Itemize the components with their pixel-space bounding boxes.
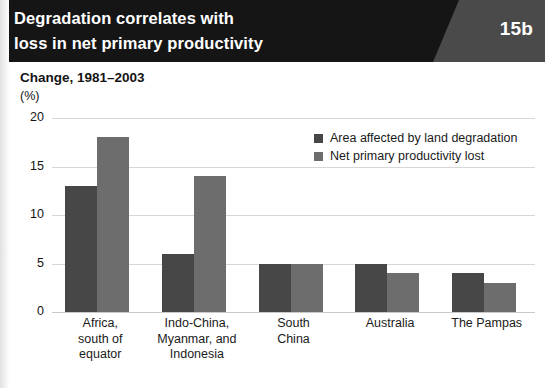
x-axis-category-labels: Africa,south ofequatorIndo-China,Myanmar… bbox=[52, 316, 535, 378]
legend-swatch-icon-1 bbox=[314, 152, 323, 161]
bar-1-1 bbox=[194, 176, 226, 312]
bar-0-0 bbox=[65, 186, 97, 312]
bar-4-1 bbox=[484, 283, 516, 312]
page-title-line-1: Degradation correlates with bbox=[14, 6, 414, 31]
legend-label-1: Net primary productivity lost bbox=[330, 149, 484, 163]
bar-2-1 bbox=[291, 264, 323, 313]
bar-1-0 bbox=[162, 254, 194, 312]
x-axis-label-4: The Pampas bbox=[420, 316, 545, 332]
chart-legend: Area affected by land degradation Net pr… bbox=[314, 130, 517, 166]
header-band: Degradation correlates with loss in net … bbox=[0, 0, 545, 62]
figure-panel: Degradation correlates with loss in net … bbox=[0, 0, 545, 388]
legend-swatch-icon-0 bbox=[314, 134, 323, 143]
figure-number-badge: 15b bbox=[500, 18, 533, 40]
y-axis-unit-label: (%) bbox=[20, 89, 39, 103]
x-axis-label-line: The Pampas bbox=[420, 316, 545, 332]
page-edge-strip bbox=[0, 0, 9, 388]
legend-item-0: Area affected by land degradation bbox=[314, 130, 517, 146]
x-axis-label-line: China bbox=[227, 332, 360, 348]
bar-4-0 bbox=[452, 273, 484, 312]
legend-label-0: Area affected by land degradation bbox=[330, 131, 517, 145]
gridline-0 bbox=[52, 312, 535, 313]
bar-3-1 bbox=[387, 273, 419, 312]
chart-subtitle: Change, 1981–2003 bbox=[20, 70, 145, 85]
bar-0-1 bbox=[97, 137, 129, 312]
bar-3-0 bbox=[355, 264, 387, 313]
page-title-line-2: loss in net primary productivity bbox=[14, 31, 414, 56]
bar-2-0 bbox=[259, 264, 291, 313]
legend-item-1: Net primary productivity lost bbox=[314, 148, 517, 164]
page-title: Degradation correlates with loss in net … bbox=[14, 6, 414, 56]
x-axis-label-line: Indonesia bbox=[131, 347, 264, 363]
